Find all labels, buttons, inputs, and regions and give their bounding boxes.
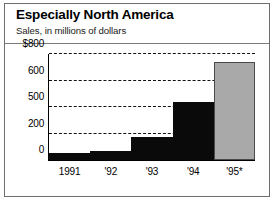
- y-axis-tick-label: 200: [28, 117, 44, 128]
- x-axis-tick-label: '94: [187, 166, 199, 177]
- bar-series: [49, 54, 255, 160]
- bar: [214, 62, 255, 160]
- x-axis-tick-label: 1991: [59, 166, 80, 177]
- y-axis-tick-label: $800: [23, 38, 44, 49]
- bar: [90, 151, 131, 160]
- x-axis-tick-label: '93: [146, 166, 158, 177]
- data-rect: 0200500600$800 1991'92'93'94'95*: [49, 54, 255, 160]
- bar: [49, 153, 90, 160]
- y-axis-tick-label: 600: [28, 64, 44, 75]
- x-axis-tick-label: '92: [105, 166, 117, 177]
- chart-subtitle: Sales, in millions of dollars: [16, 25, 126, 36]
- bar: [173, 102, 214, 160]
- y-axis-tick-label: 0: [39, 144, 44, 155]
- chart-title: Especially North America: [16, 7, 174, 22]
- x-axis-line: [48, 160, 255, 161]
- y-axis-tick-label: 500: [28, 91, 44, 102]
- x-axis-tick-label: '95*: [226, 166, 242, 177]
- bar: [131, 137, 172, 160]
- plot-area: 0200500600$800 1991'92'93'94'95*: [5, 45, 269, 196]
- chart-figure: Especially North America Sales, in milli…: [4, 3, 270, 197]
- chart-header: Especially North America Sales, in milli…: [5, 4, 269, 44]
